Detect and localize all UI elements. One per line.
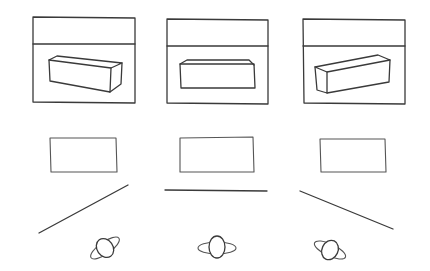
sketch-canvas	[0, 0, 430, 271]
center-view-frame	[167, 19, 268, 104]
right-box-perspective	[315, 55, 390, 93]
right-object-rect	[320, 139, 386, 172]
center-box-perspective	[180, 60, 255, 88]
center-view-plane-line	[165, 190, 267, 191]
right-view-plane-line	[300, 191, 393, 229]
left-column	[33, 17, 135, 266]
center-object-rect	[180, 137, 254, 172]
center-observer-icon	[198, 236, 236, 258]
left-view-plane-line	[39, 185, 128, 233]
left-observer-icon	[85, 230, 124, 266]
left-box-perspective	[49, 56, 122, 92]
right-observer-icon	[310, 234, 349, 266]
right-column	[300, 19, 405, 266]
left-object-rect	[50, 138, 117, 172]
center-column	[165, 19, 268, 258]
left-view-frame	[33, 17, 135, 103]
